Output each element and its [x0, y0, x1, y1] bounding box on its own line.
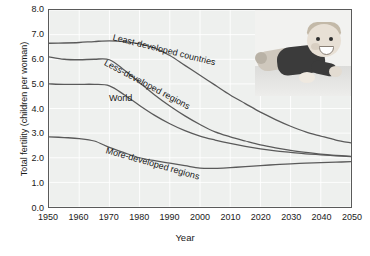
series-label: World — [109, 93, 132, 103]
x-tick-label: 2050 — [332, 212, 370, 222]
y-tick-label: 7.0 — [18, 29, 44, 39]
baby-foot — [255, 52, 267, 64]
baby-hand-left — [299, 72, 315, 83]
y-tick-label: 2.0 — [18, 153, 44, 163]
fertility-chart-figure: Total fertility (children per woman) Yea… — [0, 0, 370, 256]
x-axis-ticks: 1950196019701980199020002010202020302040… — [0, 212, 370, 228]
y-tick-label: 1.0 — [18, 178, 44, 188]
baby-photo — [255, 10, 352, 96]
x-axis-title: Year — [0, 232, 370, 243]
baby-hand-right — [329, 66, 342, 77]
y-tick-label: 3.0 — [18, 128, 44, 138]
baby-eye-right — [329, 37, 333, 41]
baby-eye-left — [316, 37, 320, 41]
y-tick-label: 8.0 — [18, 4, 44, 14]
y-tick-label: 6.0 — [18, 54, 44, 64]
plot-area: Least-developed countriesLess-developed … — [48, 9, 352, 208]
y-tick-label: 5.0 — [18, 79, 44, 89]
y-tick-label: 4.0 — [18, 104, 44, 114]
